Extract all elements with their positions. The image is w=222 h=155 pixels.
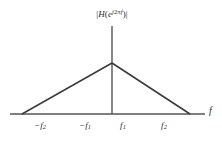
tick-subscript: 1 <box>123 123 126 130</box>
tick-label-f1: f1 <box>120 121 126 131</box>
tick-label-minus-f1: −f1 <box>79 121 91 131</box>
frequency-response-figure: |H(ej2πf)| −f2 −f1 f1 f2 f <box>0 0 222 155</box>
magnitude-bar-close: | <box>126 9 128 19</box>
response-rising-edge <box>22 63 112 114</box>
response-falling-edge <box>112 63 190 114</box>
exponent-group: j2πf <box>112 8 123 15</box>
frequency-axis-label: f <box>209 106 212 116</box>
tick-subscript: 2 <box>43 123 46 130</box>
tick-label-minus-f2: −f2 <box>34 121 46 131</box>
tick-subscript: 2 <box>164 123 167 130</box>
magnitude-axis-label: |H(ej2πf)| <box>96 9 127 19</box>
plot-canvas <box>0 0 222 155</box>
tick-label-f2: f2 <box>161 121 167 131</box>
tick-subscript: 1 <box>88 123 91 130</box>
